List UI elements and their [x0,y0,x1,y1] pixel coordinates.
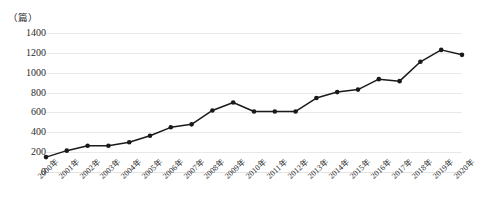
y-tick-label-1400: 1400 [10,28,46,38]
data-point-2004 [127,140,132,145]
data-series-line [46,33,462,172]
data-point-2010 [252,109,257,114]
data-point-2016 [377,77,382,82]
data-point-2019 [439,48,444,53]
data-point-2013 [314,96,319,101]
data-point-2007 [189,122,194,127]
data-point-2002 [85,143,90,148]
x-axis-tick-labels: 2000年2001年2002年2003年2004年2005年2006年2007年… [46,174,462,217]
series-polyline [46,50,462,157]
data-point-2017 [397,79,402,84]
data-point-2008 [210,108,215,113]
data-point-2001 [65,148,70,153]
y-tick-label-200: 200 [10,147,46,157]
y-tick-label-1000: 1000 [10,68,46,78]
data-point-2011 [273,109,278,114]
y-tick-label-600: 600 [10,107,46,117]
data-point-2020 [460,53,465,58]
data-point-2003 [106,143,111,148]
data-point-2006 [169,125,174,130]
y-tick-label-400: 400 [10,127,46,137]
y-axis-unit-label: （篇） [8,10,38,24]
data-point-2014 [335,90,340,95]
y-tick-label-800: 800 [10,88,46,98]
line-chart: （篇） 1400120010008006004002000 2000年2001年… [0,0,479,217]
data-point-2000 [44,155,49,160]
data-point-2012 [293,109,298,114]
data-point-2018 [418,59,423,64]
data-point-2005 [148,133,153,138]
y-tick-label-1200: 1200 [10,48,46,58]
data-point-2009 [231,100,236,105]
data-point-2015 [356,87,361,92]
